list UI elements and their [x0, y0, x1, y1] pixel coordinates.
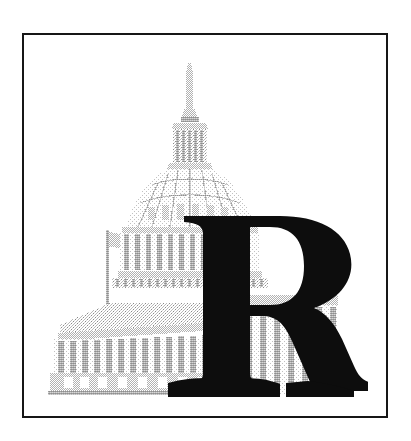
emblem-border-frame [22, 33, 388, 418]
monogram-letter-r [158, 213, 368, 405]
logo-canvas [0, 0, 411, 441]
lantern-cupola [167, 123, 213, 169]
statue-of-freedom-spire [181, 63, 199, 122]
artwork-stage [24, 35, 386, 416]
